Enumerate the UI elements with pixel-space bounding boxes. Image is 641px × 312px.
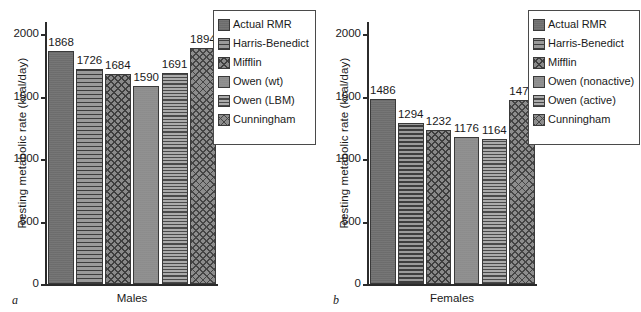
bar — [426, 130, 452, 284]
bar — [133, 86, 159, 284]
legend-item-label: Owen (nonactive) — [548, 76, 634, 87]
legend-swatch-icon — [533, 95, 545, 107]
legend-item-mifflin[interactable]: Mifflin — [218, 53, 310, 72]
bar — [370, 99, 396, 284]
legend-a: Actual RMRHarris-BenedictMifflinOwen (wt… — [213, 10, 316, 145]
panel-b-females: Resting metabolic rate (kcal/day) 050010… — [321, 0, 641, 312]
legend-item-label: Harris-Benedict — [233, 38, 309, 49]
bar-value-label: 1164 — [476, 124, 514, 136]
legend-swatch-icon — [218, 114, 230, 126]
bar — [482, 139, 508, 284]
bar — [48, 51, 74, 284]
legend-item-label: Owen (LBM) — [233, 95, 295, 106]
legend-swatch-icon — [218, 57, 230, 69]
bar — [105, 74, 131, 284]
legend-item-owen-wt[interactable]: Owen (wt) — [218, 72, 310, 91]
panel-letter-a: a — [12, 293, 18, 308]
panel-letter-b: b — [333, 293, 339, 308]
legend-swatch-icon — [533, 57, 545, 69]
legend-item-owen-lbm[interactable]: Owen (LBM) — [218, 91, 310, 110]
legend-item-label: Mifflin — [233, 57, 262, 68]
bar-value-label: 1691 — [156, 58, 194, 70]
legend-item-label: Cunningham — [548, 114, 610, 125]
legend-swatch-icon — [218, 19, 230, 31]
bar — [398, 123, 424, 284]
x-axis-label-a: Males — [48, 292, 216, 304]
legend-item-label: Owen (active) — [548, 95, 616, 106]
legend-item-mifflin[interactable]: Mifflin — [533, 53, 634, 72]
figure-rmr-comparison: Resting metabolic rate (kcal/day) 050010… — [0, 0, 641, 312]
legend-swatch-icon — [533, 76, 545, 88]
legend-item-owen-nonactive[interactable]: Owen (nonactive) — [533, 72, 634, 91]
legend-item-label: Harris-Benedict — [548, 38, 624, 49]
legend-item-actual-rmr[interactable]: Actual RMR — [533, 15, 634, 34]
legend-item-label: Actual RMR — [548, 19, 607, 30]
legend-b: Actual RMRHarris-BenedictMifflinOwen (no… — [528, 10, 640, 145]
bar — [76, 69, 102, 284]
legend-swatch-icon — [533, 38, 545, 50]
legend-item-owen-active[interactable]: Owen (active) — [533, 91, 634, 110]
legend-swatch-icon — [218, 38, 230, 50]
panel-a-males: Resting metabolic rate (kcal/day) 050010… — [0, 0, 320, 312]
x-axis-label-b: Females — [368, 292, 536, 304]
legend-item-cunningham[interactable]: Cunningham — [533, 110, 634, 129]
legend-item-label: Actual RMR — [233, 19, 292, 30]
legend-item-label: Cunningham — [233, 114, 295, 125]
legend-item-label: Mifflin — [548, 57, 577, 68]
legend-item-harris-benedict[interactable]: Harris-Benedict — [533, 34, 634, 53]
bar — [162, 73, 188, 284]
bar-value-label: 1868 — [42, 36, 80, 48]
legend-item-harris-benedict[interactable]: Harris-Benedict — [218, 34, 310, 53]
bar-value-label: 1590 — [127, 71, 165, 83]
legend-swatch-icon — [533, 19, 545, 31]
legend-item-actual-rmr[interactable]: Actual RMR — [218, 15, 310, 34]
legend-item-label: Owen (wt) — [233, 76, 283, 87]
bar-value-label: 1684 — [99, 59, 137, 71]
legend-swatch-icon — [218, 76, 230, 88]
legend-swatch-icon — [218, 95, 230, 107]
bar-value-label: 1486 — [364, 84, 402, 96]
legend-swatch-icon — [533, 114, 545, 126]
bar — [454, 137, 480, 284]
legend-item-cunningham[interactable]: Cunningham — [218, 110, 310, 129]
